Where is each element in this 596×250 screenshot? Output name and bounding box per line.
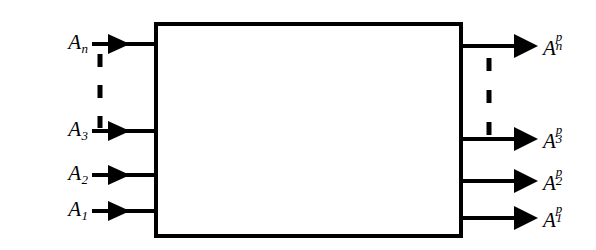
output-label-2-base: A	[543, 171, 556, 195]
output-lines-group	[461, 34, 538, 230]
output-label-n: Apn	[543, 34, 565, 59]
output-label-3-sub: 3	[556, 132, 563, 145]
output-signal-1	[461, 206, 538, 230]
input-signal-n	[92, 34, 156, 54]
input-label-2: A2	[68, 163, 88, 186]
input-arrowhead-n	[108, 34, 130, 54]
output-label-2: Ap2	[543, 169, 565, 194]
output-arrowhead-2	[514, 169, 538, 193]
central-block	[156, 24, 461, 236]
input-label-1-base: A	[68, 197, 81, 221]
block-diagram-figure: An A3 A2 A1 Apn Ap3 Ap2 Ap1	[0, 0, 596, 250]
input-label-2-base: A	[68, 161, 81, 185]
output-label-n-sub: n	[556, 39, 563, 52]
input-label-1-sub: 1	[82, 209, 89, 224]
output-arrowhead-1	[514, 206, 538, 230]
input-label-3: A3	[68, 119, 88, 142]
output-arrowhead-n	[514, 34, 538, 58]
output-label-2-sub: 2	[556, 174, 563, 187]
output-label-3: Ap3	[543, 127, 565, 152]
output-signal-n	[461, 34, 538, 58]
input-label-n-base: A	[68, 30, 81, 54]
output-label-1-sub: 1	[556, 211, 563, 224]
output-label-3-base: A	[543, 129, 556, 153]
output-arrowhead-3	[514, 127, 538, 151]
input-label-n: An	[68, 32, 88, 55]
input-signal-2	[92, 165, 156, 185]
output-label-1: Ap1	[543, 206, 565, 231]
input-label-3-sub: 3	[82, 129, 89, 144]
input-signal-1	[92, 201, 156, 221]
output-signal-2	[461, 169, 538, 193]
input-arrowhead-2	[108, 165, 130, 185]
input-label-3-base: A	[68, 117, 81, 141]
diagram-canvas	[0, 0, 596, 250]
output-label-n-base: A	[543, 36, 556, 60]
input-arrowhead-3	[108, 121, 130, 141]
input-label-1: A1	[68, 199, 88, 222]
output-signal-3	[461, 127, 538, 151]
input-label-n-sub: n	[82, 42, 89, 57]
input-arrowhead-1	[108, 201, 130, 221]
output-label-1-base: A	[543, 208, 556, 232]
input-label-2-sub: 2	[82, 173, 89, 188]
